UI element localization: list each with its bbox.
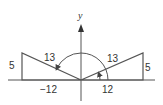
left-hypotenuse-label: 13 bbox=[44, 52, 56, 63]
y-axis-label: y bbox=[77, 10, 83, 21]
right-horizontal-leg-label: 12 bbox=[102, 84, 114, 95]
large-angle-arc bbox=[57, 53, 108, 80]
right-hypotenuse-label: 13 bbox=[107, 53, 119, 64]
diagram-canvas: y 5 13 −12 5 13 12 bbox=[0, 0, 163, 105]
left-vertical-leg-label: 5 bbox=[9, 60, 15, 71]
y-axis-arrow-icon bbox=[78, 24, 84, 32]
small-angle-arc bbox=[99, 74, 100, 80]
left-horizontal-leg-label: −12 bbox=[40, 84, 57, 95]
right-vertical-leg-label: 5 bbox=[145, 62, 151, 73]
